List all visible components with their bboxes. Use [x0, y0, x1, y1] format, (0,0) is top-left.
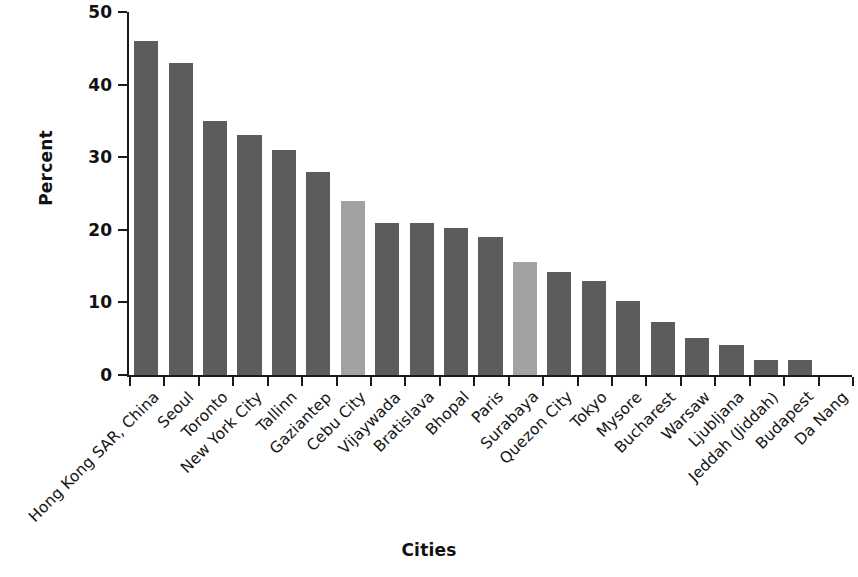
- x-axis-labels: Hong Kong SAR, ChinaSeoulTorontoNew York…: [0, 0, 858, 577]
- x-axis-label: Hong Kong SAR, China: [25, 388, 163, 526]
- bar-chart: Percent 01020304050 Hong Kong SAR, China…: [0, 0, 858, 577]
- x-axis-title: Cities: [0, 540, 858, 560]
